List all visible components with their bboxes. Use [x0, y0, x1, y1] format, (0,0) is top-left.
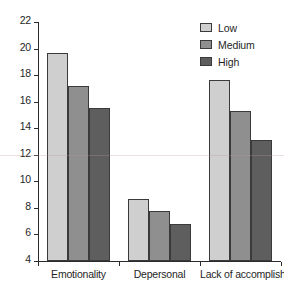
legend-swatch-high [200, 57, 212, 66]
y-axis-tick-mark [34, 155, 38, 156]
y-axis-tick-mark [34, 22, 38, 23]
bar [209, 80, 230, 261]
legend-item: Medium [200, 37, 255, 52]
legend-label: High [218, 56, 239, 68]
y-axis-tick-label: 12 [20, 148, 31, 159]
x-axis-tick-mark [200, 262, 201, 266]
legend-item: Low [200, 20, 255, 35]
bar [89, 108, 110, 261]
x-axis-category-label: Lack of accomplish [200, 268, 281, 280]
y-axis-tick-label: 4 [25, 254, 31, 265]
y-axis-tick-mark [34, 181, 38, 182]
bar-chart: 46810121416182022 EmotionalityDepersonal… [0, 0, 284, 291]
x-axis-tick-mark [119, 262, 120, 266]
y-axis-tick-label: 18 [20, 68, 31, 79]
y-axis-tick-label: 22 [20, 15, 31, 26]
legend-label: Low [218, 22, 237, 34]
y-axis-tick-label: 14 [20, 121, 31, 132]
bar [230, 111, 251, 261]
y-axis-tick-mark [34, 208, 38, 209]
legend-label: Medium [218, 39, 255, 51]
y-axis-tick-mark [34, 75, 38, 76]
y-axis-tick-mark [34, 49, 38, 50]
y-axis-tick-mark [34, 234, 38, 235]
y-axis-tick-label: 20 [20, 42, 31, 53]
x-axis-line [38, 261, 281, 262]
x-axis-category-label: Emotionality [38, 268, 119, 280]
bar [47, 53, 68, 261]
x-axis-category-label: Depersonal [119, 268, 200, 280]
bar [68, 86, 89, 261]
y-axis-tick-label: 10 [20, 174, 31, 185]
legend-swatch-medium [200, 40, 212, 49]
y-axis-tick-label: 6 [25, 227, 31, 238]
legend: LowMediumHigh [200, 20, 255, 71]
x-axis-tick-mark [281, 262, 282, 266]
bar [251, 140, 272, 261]
bar [128, 199, 149, 261]
y-axis-tick-mark [34, 102, 38, 103]
legend-swatch-low [200, 23, 212, 32]
y-axis-tick-label: 8 [25, 201, 31, 212]
bar [170, 224, 191, 261]
legend-item: High [200, 54, 255, 69]
y-axis-tick-mark [34, 128, 38, 129]
x-axis-tick-mark [38, 262, 39, 266]
y-axis-tick-label: 16 [20, 95, 31, 106]
bar [149, 211, 170, 261]
